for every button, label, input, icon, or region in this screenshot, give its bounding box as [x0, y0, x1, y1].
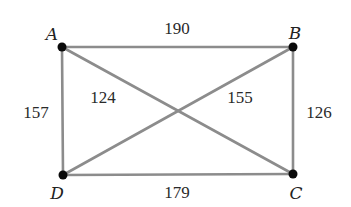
vertex-d [59, 171, 68, 180]
vertex-label-a: A [44, 24, 58, 44]
vertex-a [58, 43, 67, 52]
weight-label-bc: 126 [306, 103, 332, 122]
edge-dc [63, 174, 293, 175]
vertex-label-b: B [288, 23, 302, 43]
weighted-graph-diagram: A B C D 190 179 157 126 124 155 [0, 0, 351, 207]
weight-label-dc: 179 [164, 183, 190, 202]
edge-ad [62, 47, 63, 175]
edges [62, 47, 293, 175]
vertex-b [289, 43, 298, 52]
weight-label-ac: 124 [90, 88, 116, 107]
vertex-label-c: C [289, 183, 302, 203]
weight-label-ad: 157 [23, 103, 49, 122]
weight-label-bd: 155 [227, 88, 253, 107]
vertex-c [289, 170, 298, 179]
weight-label-ab: 190 [164, 19, 190, 38]
vertex-label-d: D [49, 183, 64, 203]
